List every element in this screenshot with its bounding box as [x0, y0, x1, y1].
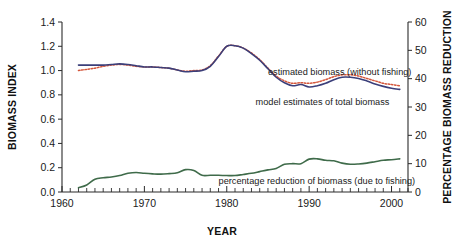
right-axis-ticks: [408, 22, 412, 192]
right-tick-label: 10: [415, 157, 427, 169]
series-annotation-label-1: model estimates of total biomass: [256, 97, 390, 107]
right-tick-label: 20: [415, 129, 427, 141]
right-axis-tick-labels: 0102030405060: [415, 16, 427, 198]
left-tick-label: 0.6: [40, 113, 55, 125]
left-tick-label: 0.0: [40, 186, 55, 198]
right-tick-label: 60: [415, 16, 427, 28]
chart-container: 0.00.20.40.60.81.01.21.4 0102030405060 1…: [0, 0, 462, 245]
left-tick-label: 0.2: [40, 161, 55, 173]
x-axis-tick-labels: 19601970198019902000: [50, 197, 403, 209]
axis-lines: [62, 22, 408, 192]
right-tick-label: 0: [415, 186, 421, 198]
left-tick-label: 1.0: [40, 64, 55, 76]
right-axis-title: PERCENTAGE BIOMASS REDUCTION: [441, 10, 453, 204]
x-tick-label: 1990: [297, 197, 321, 209]
x-tick-label: 1970: [133, 197, 157, 209]
x-tick-label: 1980: [215, 197, 239, 209]
biomass-line-chart: 0.00.20.40.60.81.01.21.4 0102030405060 1…: [0, 0, 462, 245]
series-annotation-label-0: estimated biomass (without fishing): [268, 67, 412, 77]
series-annotation-label-2: percentage reduction of biomass (due to …: [219, 176, 416, 186]
series-line-0: [78, 45, 399, 86]
x-tick-label: 1960: [50, 197, 74, 209]
left-tick-label: 0.4: [40, 137, 55, 149]
x-axis-title: YEAR: [207, 225, 237, 237]
left-tick-label: 1.2: [40, 40, 55, 52]
x-tick-label: 2000: [380, 197, 404, 209]
right-tick-label: 40: [415, 72, 427, 84]
right-tick-label: 30: [415, 101, 427, 113]
left-axis-ticks: [58, 22, 62, 192]
left-tick-label: 0.8: [40, 88, 55, 100]
left-tick-label: 1.4: [40, 16, 55, 28]
left-axis-title: BIOMASS INDEX: [6, 64, 18, 150]
x-axis-ticks: [62, 186, 408, 192]
left-axis-tick-labels: 0.00.20.40.60.81.01.21.4: [40, 16, 55, 198]
right-tick-label: 50: [415, 44, 427, 56]
